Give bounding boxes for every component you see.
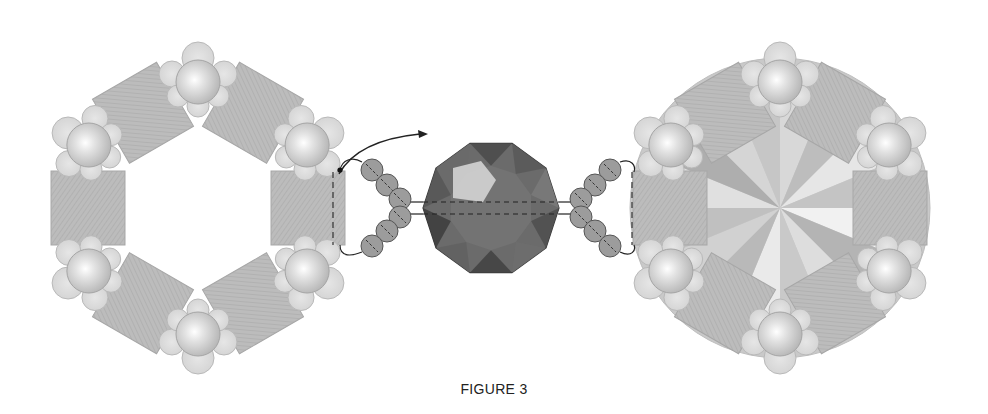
bezel-square-bead bbox=[51, 171, 125, 245]
pearl-bead bbox=[176, 312, 220, 356]
pearl-bead bbox=[285, 249, 329, 293]
thread-start-dot bbox=[337, 167, 342, 172]
pearl-bead bbox=[285, 123, 329, 167]
beading-diagram bbox=[0, 0, 988, 414]
seed-bead bbox=[599, 235, 621, 257]
bezel-square-bead bbox=[271, 171, 345, 245]
seed-bead bbox=[361, 235, 383, 257]
bezel-square-bead bbox=[853, 171, 927, 245]
pearl-bead bbox=[67, 249, 111, 293]
pearl-bead bbox=[649, 249, 693, 293]
pearl-bead bbox=[176, 60, 220, 104]
faceted-round-bead bbox=[423, 143, 559, 272]
figure-caption: FIGURE 3 bbox=[0, 381, 988, 397]
bezel-square-bead bbox=[633, 171, 707, 245]
pearl-bead bbox=[867, 123, 911, 167]
left-bezel-ring bbox=[51, 42, 345, 374]
pearl-bead bbox=[758, 312, 802, 356]
pearl-bead bbox=[67, 123, 111, 167]
pearl-bead bbox=[649, 123, 693, 167]
pearl-bead bbox=[758, 60, 802, 104]
pearl-bead bbox=[867, 249, 911, 293]
